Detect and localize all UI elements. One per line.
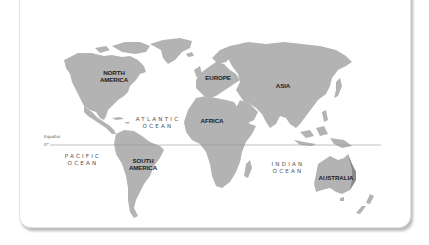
label-line: OCEAN — [268, 168, 308, 175]
south-america-shape — [114, 130, 164, 218]
greenland — [150, 38, 192, 64]
arctic-islands — [112, 42, 150, 54]
label-line: ATLANTIC — [134, 116, 182, 123]
label-line: PACIFIC — [61, 153, 105, 160]
label-line: INDIAN — [268, 161, 308, 168]
asia-label: ASIA — [268, 83, 298, 90]
north-america-label: NORTH AMERICA — [96, 70, 132, 83]
new-zealand — [366, 194, 374, 204]
north-america-shape — [64, 53, 146, 120]
equator-label: Equator — [44, 134, 60, 139]
south-america-label: SOUTH AMERICA — [125, 158, 161, 171]
japan — [334, 78, 342, 98]
australia-label: AUSTRALIA — [316, 175, 356, 182]
equator-degree-label: 0° — [44, 142, 49, 147]
label-line: OCEAN — [134, 123, 182, 130]
label-line: AMERICA — [125, 165, 161, 172]
label-line: OCEAN — [61, 160, 105, 167]
europe-label: EUROPE — [200, 75, 236, 82]
pacific-ocean-label: PACIFIC OCEAN — [61, 153, 105, 168]
atlantic-ocean-label: ATLANTIC OCEAN — [134, 116, 182, 131]
africa-label: AFRICA — [197, 118, 227, 125]
indian-ocean-label: INDIAN OCEAN — [268, 161, 308, 176]
label-line: AMERICA — [96, 77, 132, 84]
